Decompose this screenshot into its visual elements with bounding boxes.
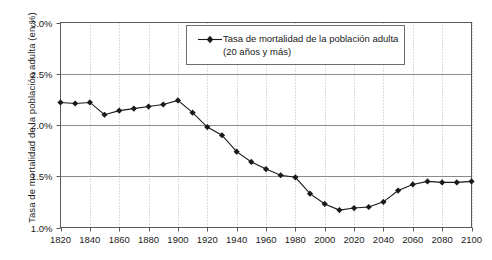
x-axis-tick-label: 2100 [452,234,492,245]
data-point-marker [278,172,284,178]
data-point-marker [263,166,269,172]
data-point-marker [366,204,372,210]
data-point-marker [145,103,151,109]
data-point-marker [160,101,166,107]
data-point-marker [336,207,342,213]
y-axis-tick-label: 1.0% [13,222,53,233]
legend-entry: Tasa de mortalidad de la población adult… [197,33,398,58]
data-point-marker [410,181,416,187]
legend-label-line2: (20 años y más) [223,46,398,59]
y-axis-tick-label: 2.0% [13,120,53,131]
legend-label: Tasa de mortalidad de la población adult… [223,33,398,58]
x-axis-tick-marks [62,228,473,232]
data-point-marker [439,179,445,185]
legend-label-line1: Tasa de mortalidad de la población adult… [223,33,398,46]
data-point-marker [424,178,430,184]
chart-legend: Tasa de mortalidad de la población adult… [186,25,405,65]
data-point-marker [351,205,357,211]
y-axis-tick-marks [57,24,61,229]
chart-container: Tasa de mortalidad de la población adult… [0,0,492,260]
data-point-marker [57,99,63,105]
data-point-marker [454,179,460,185]
data-point-marker [116,108,122,114]
data-point-marker [131,106,137,112]
data-point-marker [468,178,474,184]
data-point-marker [72,100,78,106]
y-axis-tick-label: 1.5% [13,171,53,182]
legend-marker-icon [197,34,223,45]
y-axis-tick-label: 3.0% [13,17,53,28]
y-axis-tick-label: 2.5% [13,68,53,79]
